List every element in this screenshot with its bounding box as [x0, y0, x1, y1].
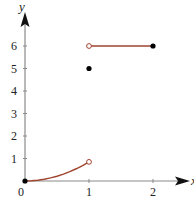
- y-tick-label: 4: [11, 84, 17, 98]
- x-axis-label: x: [190, 173, 194, 188]
- curve-end-open: [87, 159, 92, 164]
- piece-curve-line: [25, 162, 89, 181]
- y-axis-label: y: [17, 0, 25, 14]
- y-tick-label: 2: [11, 129, 17, 143]
- start-point: [22, 178, 27, 183]
- x-tick-label: 1: [86, 185, 92, 199]
- y-tick-label: 1: [11, 152, 17, 166]
- points: [22, 43, 155, 183]
- y-tick-label: 5: [11, 62, 17, 76]
- piecewise-function-plot: x y 012123456: [0, 0, 194, 202]
- segment-end-point: [150, 43, 155, 48]
- axes: x y: [17, 0, 194, 188]
- x-tick-label: 0: [18, 185, 24, 199]
- y-tick-label: 3: [11, 107, 17, 121]
- segment-start-open: [87, 44, 92, 49]
- y-tick-label: 6: [11, 39, 17, 53]
- x-tick-label: 2: [150, 185, 156, 199]
- ticks: 012123456: [11, 39, 156, 199]
- isolated-point: [86, 66, 91, 71]
